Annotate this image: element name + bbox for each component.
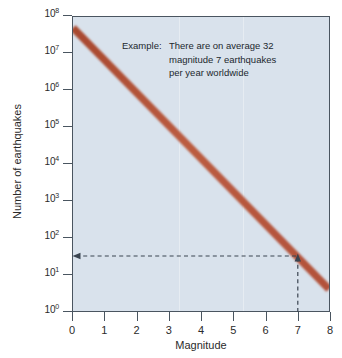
x-tick-label: 0 [62, 324, 82, 337]
annotation-text: There are on average 32 [169, 40, 274, 51]
x-tick-label: 4 [191, 324, 211, 337]
y-tick-mark [63, 274, 72, 275]
y-tick-mark [63, 89, 72, 90]
y-tick-label: 108 [45, 8, 59, 19]
y-tick-label: 101 [45, 267, 59, 278]
x-tick-label: 5 [223, 324, 243, 337]
y-tick-label: 107 [45, 45, 59, 56]
annotation-label: Example: [122, 39, 169, 53]
y-tick-label: 103 [45, 193, 59, 204]
y-tick-label: 104 [45, 156, 59, 167]
x-tick-mark [201, 312, 202, 321]
y-tick-mark [63, 163, 72, 164]
x-tick-mark [72, 312, 73, 321]
annotation-text: magnitude 7 earthquakes [169, 54, 276, 65]
y-tick-mark [63, 237, 72, 238]
x-tick-label: 7 [288, 324, 308, 337]
y-tick-mark [63, 15, 72, 16]
y-tick-mark [63, 311, 72, 312]
x-tick-label: 1 [94, 324, 114, 337]
x-tick-label: 2 [127, 324, 147, 337]
y-tick-label: 102 [45, 230, 59, 241]
y-tick-label: 100 [45, 304, 59, 315]
y-tick-mark [63, 52, 72, 53]
annotation-line-2: magnitude 7 earthquakes [122, 53, 276, 67]
example-annotation-text: Example:There are on average 32 magnitud… [122, 39, 276, 80]
annotation-text: per year worldwide [169, 67, 249, 78]
x-tick-mark [169, 312, 170, 321]
x-tick-mark [233, 312, 234, 321]
x-tick-mark [266, 312, 267, 321]
y-tick-mark [63, 126, 72, 127]
x-tick-label: 8 [320, 324, 340, 337]
x-tick-mark [298, 312, 299, 321]
y-tick-mark [63, 200, 72, 201]
annotation-line-3: per year worldwide [122, 66, 276, 80]
earthquake-frequency-magnitude-chart: 108 107 106 105 104 103 102 101 100 0 1 [0, 0, 342, 358]
y-tick-label: 106 [45, 82, 59, 93]
annotation-line-1: Example:There are on average 32 [122, 39, 276, 53]
x-tick-label: 3 [159, 324, 179, 337]
x-tick-mark [330, 312, 331, 321]
y-axis-title: Number of earthquakes [11, 82, 24, 242]
x-tick-label: 6 [256, 324, 276, 337]
x-tick-mark [137, 312, 138, 321]
x-axis-title: Magnitude [72, 339, 330, 352]
y-tick-label: 105 [45, 119, 59, 130]
x-tick-mark [104, 312, 105, 321]
